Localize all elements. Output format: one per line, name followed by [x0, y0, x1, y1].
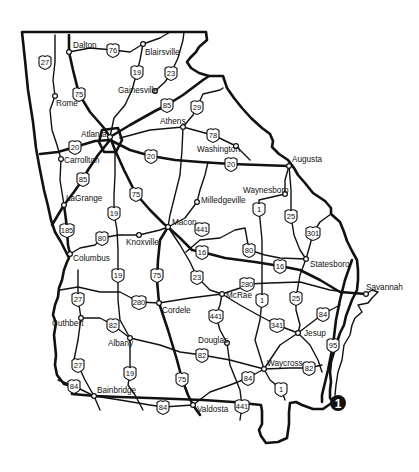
city-dalton: Dalton [67, 41, 98, 54]
route-shield-280: 280 [240, 278, 254, 292]
city-label: Athens [160, 117, 186, 126]
shield-number: 16 [198, 248, 206, 257]
route-shield-20: 20 [69, 141, 81, 155]
shield-number: 27 [74, 361, 82, 370]
city-dot-icon [67, 50, 72, 55]
city-dot-icon [62, 203, 67, 208]
shield-number: 280 [241, 280, 254, 289]
shield-number: 75 [178, 375, 186, 384]
route-shield-441: 441 [209, 310, 223, 324]
route-shield-84: 84 [157, 401, 169, 415]
city-dot-icon [191, 403, 196, 408]
route-shield-82: 82 [303, 362, 315, 376]
city-markers: DaltonBlairsvilleRomeGainesvilleAthensAt… [52, 41, 403, 414]
city-label: McRae [226, 291, 252, 300]
city-label: Cuthbert [52, 319, 84, 328]
route-shield-185: 185 [60, 224, 74, 238]
route-shield-1: 1 [253, 203, 265, 217]
city-dot-icon [92, 394, 97, 399]
city-label: Augusta [292, 155, 322, 164]
shield-number: 95 [329, 341, 337, 350]
route-shield-82: 82 [107, 319, 119, 333]
city-label: Knoxville [126, 238, 159, 247]
city-label: Washington [197, 145, 240, 154]
city-label: Rome [56, 99, 78, 108]
route-shield-76: 76 [107, 44, 119, 58]
shield-number: 280 [133, 298, 146, 307]
city-jesup: Jesup [296, 329, 327, 338]
shield-number: 75 [153, 271, 161, 280]
city-dot-icon [304, 257, 309, 262]
shield-number: 19 [126, 369, 134, 378]
route-shield-20: 20 [225, 158, 237, 172]
route-shield-25: 25 [285, 210, 297, 224]
city-label: Valdosta [197, 405, 229, 414]
route-shield-301: 301 [306, 227, 320, 241]
route-shield-95: 95 [327, 339, 339, 353]
shield-number: 1 [257, 205, 261, 214]
route-shield-441: 441 [235, 400, 249, 414]
city-dot-icon [364, 292, 369, 297]
city-label: Cordele [162, 306, 191, 315]
city-statesboro: Statesboro [304, 257, 350, 269]
route-shield-78: 78 [207, 129, 219, 143]
numbered-marker: 1 [330, 395, 346, 411]
city-cuthbert: Cuthbert [52, 316, 84, 328]
shield-number: 29 [193, 103, 201, 112]
route-shield-80: 80 [96, 232, 108, 246]
city-dot-icon [137, 233, 142, 238]
route-shield-84: 84 [317, 308, 329, 322]
city-label: Atlanta [81, 130, 107, 139]
city-dot-icon [166, 225, 171, 230]
shield-number: 80 [98, 234, 106, 243]
marker-label: 1 [335, 397, 342, 411]
shield-number: 185 [61, 226, 74, 235]
city-albany: Albany [108, 336, 134, 348]
city-cordele: Cordele [157, 301, 192, 315]
shield-number: 82 [305, 364, 313, 373]
shield-number: 84 [319, 310, 327, 319]
route-shield-27: 27 [39, 56, 51, 70]
route-shield-16: 16 [274, 260, 286, 274]
city-dot-icon [59, 157, 64, 162]
shield-number: 441 [210, 312, 223, 321]
route-shield-1: 1 [275, 383, 287, 397]
city-dot-icon [53, 94, 58, 99]
city-carrollton: Carrollton [59, 156, 100, 165]
route-shield-1: 1 [256, 294, 268, 308]
route-shield-19: 19 [112, 269, 124, 283]
city-dot-icon [141, 42, 146, 47]
city-label: Gainesville [118, 86, 158, 95]
city-savannah: Savannah [364, 283, 404, 296]
city-label: Dalton [73, 41, 97, 50]
shield-number: 76 [109, 46, 117, 55]
route-shield-19: 19 [108, 207, 120, 221]
route-shield-85: 85 [161, 99, 173, 113]
coastline [335, 290, 378, 395]
route-shield-16: 16 [196, 246, 208, 260]
city-milledgeville: Milledgeville [195, 196, 246, 205]
route-shield-19: 19 [124, 367, 136, 381]
city-dot-icon [108, 135, 113, 140]
city-douglas: Douglas [198, 336, 229, 345]
route-shield-341: 341 [270, 319, 284, 333]
city-dot-icon [287, 164, 292, 169]
shield-number: 78 [209, 131, 217, 140]
shield-number: 25 [287, 212, 295, 221]
route-shield-82: 82 [196, 349, 208, 363]
city-macon: Macon [166, 218, 197, 229]
city-label: Savannah [366, 283, 403, 292]
route-shield-23: 23 [165, 67, 177, 81]
shield-number: 84 [70, 382, 78, 391]
city-label: Blairsville [145, 48, 180, 57]
route-shield-27: 27 [72, 293, 84, 307]
shield-number: 441 [236, 402, 249, 411]
route-shield-29: 29 [191, 101, 203, 115]
city-lagrange: LaGrange [62, 194, 103, 207]
shield-number: 301 [307, 229, 320, 238]
shield-number: 84 [244, 374, 252, 383]
city-label: Milledgeville [201, 196, 246, 205]
shield-number: 16 [276, 262, 284, 271]
shield-number: 80 [245, 246, 253, 255]
city-dot-icon [296, 331, 301, 336]
